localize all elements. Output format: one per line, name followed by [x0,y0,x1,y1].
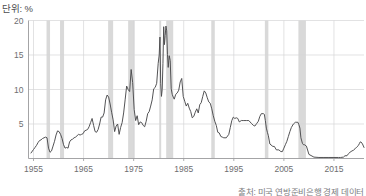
x-axis-tick-label: 2015 [324,164,343,174]
x-axis-tick-label: 1995 [224,164,243,174]
rate-line-series [31,26,364,157]
source-note: 출처: 미국 연방준비은행 경제 데이터 [238,185,364,196]
y-axis-tick-label: 5 [19,119,24,129]
federal-funds-rate-chart: 2015105 1955196519751985199520052015 [0,0,366,196]
x-axis-tick-label: 1965 [74,164,93,174]
x-axis-tick-label: 1985 [174,164,193,174]
x-axis-tick-label: 1955 [24,164,43,174]
y-axis-tick-label: 15 [14,50,24,60]
y-axis-tick-labels: 2015105 [14,16,24,130]
x-axis-tick-label: 2005 [274,164,293,174]
chart-figure: 단위: % 2015105 19551965197519851995200520… [0,0,366,196]
y-axis-tick-label: 10 [14,85,24,95]
gridlines-group [29,21,365,159]
x-axis-tick-label: 1975 [124,164,143,174]
y-axis-tick-label: 20 [14,16,24,26]
x-axis-tick-labels: 1955196519751985199520052015 [24,164,344,174]
